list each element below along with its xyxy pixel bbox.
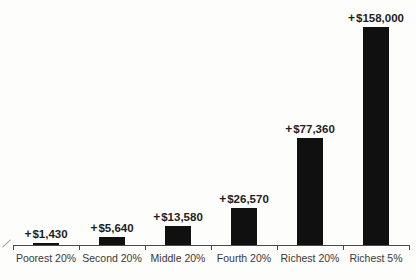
x-axis-tick (343, 245, 344, 250)
bar-value-label: +$5,640 (90, 222, 133, 235)
bar-value-amount: $158,000 (356, 12, 404, 24)
bar-group: +$1,430 (13, 228, 79, 246)
x-axis-tick (277, 245, 278, 250)
bar (165, 226, 191, 245)
bar-group: +$77,360 (277, 123, 343, 246)
plus-sign: + (219, 192, 226, 206)
bar-group: +$158,000 (343, 12, 409, 246)
category-label: Second 20% (79, 253, 145, 265)
scan-artifact-mark (2, 239, 11, 247)
bar-group: +$26,570 (211, 193, 277, 246)
x-axis-tick (145, 245, 146, 250)
bar-value-label: +$1,430 (24, 228, 67, 241)
x-axis-tick (13, 245, 14, 250)
bar-value-label: +$158,000 (348, 12, 404, 25)
plus-sign: + (90, 221, 97, 235)
bar-chart: +$1,430 +$5,640 +$13,580 +$26,570 +$77,3… (0, 0, 416, 280)
bar (363, 27, 389, 245)
x-axis-tick (409, 245, 410, 250)
bar-value-amount: $5,640 (98, 222, 133, 234)
bar-value-label: +$26,570 (219, 193, 269, 206)
x-axis-tick (211, 245, 212, 250)
bar-value-amount: $77,360 (293, 123, 335, 135)
category-label: Richest 5% (343, 253, 409, 265)
bar (99, 237, 125, 245)
x-axis-tick (79, 245, 80, 250)
category-label: Middle 20% (145, 253, 211, 265)
plus-sign: + (24, 227, 31, 241)
category-label: Fourth 20% (211, 253, 277, 265)
bar (231, 208, 257, 245)
bar-value-amount: $1,430 (32, 228, 67, 240)
plus-sign: + (348, 11, 355, 25)
category-label: Poorest 20% (13, 253, 79, 265)
bar-group: +$5,640 (79, 222, 145, 246)
category-axis: Poorest 20% Second 20% Middle 20% Fourth… (13, 253, 409, 265)
bar (297, 138, 323, 245)
plus-sign: + (153, 210, 160, 224)
bar-group: +$13,580 (145, 211, 211, 246)
plus-sign: + (285, 122, 292, 136)
bar-value-label: +$77,360 (285, 123, 335, 136)
bar-value-label: +$13,580 (153, 211, 203, 224)
bar-value-amount: $26,570 (227, 193, 269, 205)
bar-value-amount: $13,580 (161, 211, 203, 223)
category-label: Richest 20% (277, 253, 343, 265)
